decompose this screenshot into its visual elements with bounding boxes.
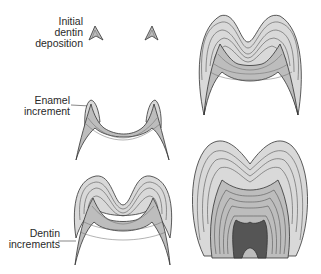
tooth-development-diagram: Initial dentin deposition Enamel increme…	[0, 0, 321, 274]
dentin-band	[76, 104, 169, 160]
stage-3-multiple-increments	[74, 176, 171, 265]
stage-1-cusp-tips	[89, 26, 158, 40]
stage-2-enamel-increment	[76, 100, 169, 160]
cusp-tip-left	[89, 26, 103, 40]
cusp-tip-right	[145, 26, 158, 40]
stage-4-advanced-crown	[199, 15, 301, 115]
stage-5-complete-crown	[192, 141, 307, 258]
